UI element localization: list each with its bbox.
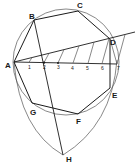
label-d: D — [110, 38, 116, 47]
svg-text:4: 4 — [71, 65, 74, 71]
svg-text:6: 6 — [101, 65, 104, 71]
svg-text:7: 7 — [117, 65, 120, 71]
svg-text:3: 3 — [57, 64, 60, 70]
svg-text:5: 5 — [86, 65, 89, 71]
label-g: G — [30, 108, 36, 117]
label-c: C — [77, 1, 83, 10]
svg-text:2: 2 — [43, 64, 46, 70]
label-f: F — [76, 117, 81, 126]
arc-right-to-h — [63, 60, 117, 155]
label-e: E — [112, 91, 118, 100]
division-labels: 1 2 3 4 5 6 7 — [28, 64, 120, 71]
label-h: H — [66, 155, 72, 164]
label-a: A — [5, 61, 11, 70]
line-b-h — [34, 20, 63, 155]
heptagon-construction-diagram: 1 2 3 4 5 6 7 A B C D E F G H — [0, 0, 135, 166]
label-b: B — [29, 12, 35, 21]
point-3 — [57, 62, 59, 64]
point-2 — [43, 61, 45, 63]
svg-text:1: 1 — [28, 64, 31, 70]
